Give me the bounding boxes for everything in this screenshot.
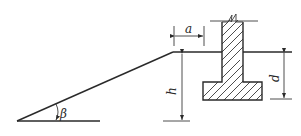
beta-angle-indicator: β	[56, 104, 67, 121]
slope-line	[17, 52, 173, 121]
wall-and-footing	[190, 0, 296, 110]
slope-foundation-diagram: β	[0, 0, 301, 136]
dimension-h: h	[163, 54, 190, 121]
a-label: a	[185, 22, 192, 36]
beta-label: β	[59, 107, 67, 121]
d-label: d	[268, 74, 282, 82]
dimension-d: d	[268, 53, 292, 99]
h-label: h	[165, 87, 179, 95]
dimension-a: a	[174, 22, 204, 46]
